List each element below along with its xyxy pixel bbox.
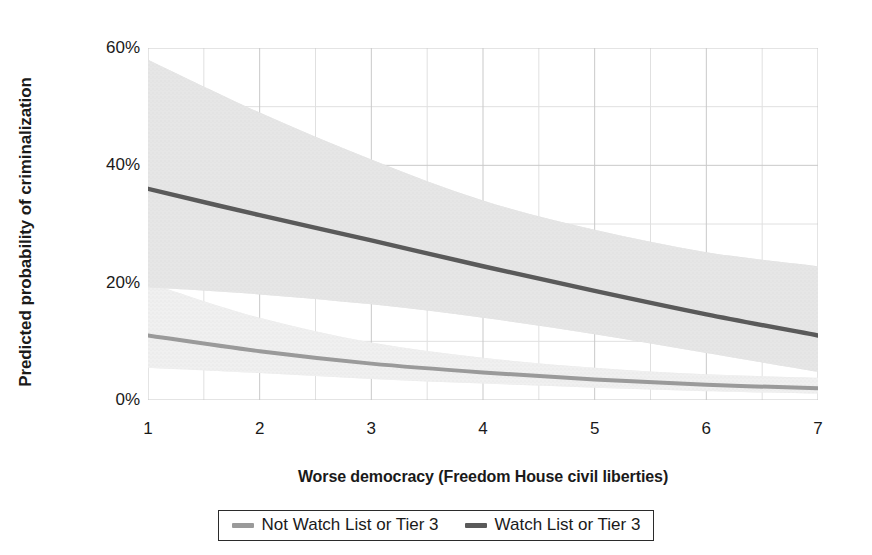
y-tick-label-3: 60% xyxy=(80,39,140,56)
plot-svg xyxy=(148,48,818,400)
legend-line-icon xyxy=(232,523,254,528)
legend-entry-0[interactable]: Not Watch List or Tier 3 xyxy=(232,516,439,534)
legend: Not Watch List or Tier 3Watch List or Ti… xyxy=(0,510,872,541)
x-axis-tick-labels: 1234567 xyxy=(0,420,872,446)
y-axis-label: Predicted probability of criminalization xyxy=(16,37,42,427)
legend-entry-1[interactable]: Watch List or Tier 3 xyxy=(465,516,641,534)
legend-line-icon xyxy=(465,523,487,528)
y-axis-tick-labels: 0%20%40%60% xyxy=(62,0,140,555)
x-tick-label-4: 5 xyxy=(575,420,615,437)
legend-box: Not Watch List or Tier 3Watch List or Ti… xyxy=(218,510,655,541)
legend-label: Not Watch List or Tier 3 xyxy=(262,516,439,534)
legend-label: Watch List or Tier 3 xyxy=(495,516,641,534)
x-tick-label-1: 2 xyxy=(240,420,280,437)
x-tick-label-6: 7 xyxy=(798,420,838,437)
x-tick-label-5: 6 xyxy=(686,420,726,437)
chart-figure: Predicted probability of criminalization… xyxy=(0,0,872,555)
x-tick-label-2: 3 xyxy=(351,420,391,437)
x-tick-label-3: 4 xyxy=(463,420,503,437)
y-tick-label-1: 20% xyxy=(80,274,140,291)
y-tick-label-0: 0% xyxy=(80,391,140,408)
x-axis-label: Worse democracy (Freedom House civil lib… xyxy=(148,468,818,486)
x-tick-label-0: 1 xyxy=(128,420,168,437)
y-tick-label-2: 40% xyxy=(80,156,140,173)
plot-area xyxy=(148,48,818,400)
